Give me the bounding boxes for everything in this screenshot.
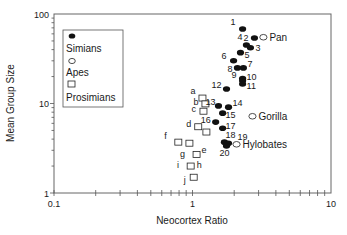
ape-point-label: Hylobates bbox=[243, 139, 287, 150]
simian-point-label: 13 bbox=[205, 97, 215, 107]
simian-point bbox=[225, 104, 232, 110]
simian-point-label: 7 bbox=[247, 59, 252, 69]
legend-label-apes: Apes bbox=[66, 67, 89, 78]
ape-point-label: Pan bbox=[269, 32, 287, 43]
prosimian-point-label: h bbox=[197, 160, 202, 170]
prosimian-point bbox=[190, 174, 197, 180]
simian-point bbox=[239, 81, 246, 87]
prosimian-point bbox=[175, 139, 182, 145]
simian-point-label: 16 bbox=[201, 115, 211, 125]
point-labels: 1234567891011121314151617181920PanGorill… bbox=[164, 17, 287, 185]
prosimian-point-label: i bbox=[177, 160, 179, 170]
filled-circle-icon bbox=[69, 33, 76, 38]
legend: Simians Apes Prosimians bbox=[63, 30, 123, 107]
simian-point-label: 9 bbox=[232, 70, 237, 80]
ape-point bbox=[260, 34, 267, 40]
prosimian-point-label: g bbox=[180, 149, 185, 159]
prosimian-point bbox=[200, 108, 207, 114]
simian-point-label: 12 bbox=[212, 80, 222, 90]
simian-point bbox=[243, 42, 250, 48]
y-tick-label: 100 bbox=[34, 10, 49, 20]
simian-point-label: 2 bbox=[243, 33, 248, 43]
simian-point-label: 15 bbox=[226, 110, 236, 120]
simian-point bbox=[212, 119, 219, 125]
prosimian-point bbox=[187, 163, 194, 169]
x-axis-label: Neocortex Ratio bbox=[156, 215, 228, 226]
simian-point bbox=[230, 58, 237, 64]
simian-point bbox=[239, 26, 246, 32]
x-tick-label: 0.1 bbox=[48, 199, 61, 209]
legend-label-prosimians: Prosimians bbox=[66, 92, 115, 103]
simian-point-label: 6 bbox=[222, 51, 227, 61]
simian-point bbox=[223, 86, 230, 92]
simian-point-label: 4 bbox=[237, 32, 242, 42]
y-axis-tick-labels: 110100 bbox=[34, 10, 49, 199]
simian-point-label: 18 bbox=[225, 130, 235, 140]
x-tick-label: 10 bbox=[326, 199, 336, 209]
simian-point-label: 11 bbox=[247, 81, 256, 91]
simian-point bbox=[215, 103, 222, 109]
prosimian-point bbox=[193, 151, 200, 157]
x-tick-label: 1 bbox=[190, 199, 195, 209]
prosimian-point-label: c bbox=[191, 104, 196, 114]
x-axis-tick-labels: 0.1110 bbox=[48, 199, 336, 209]
y-tick-label: 1 bbox=[44, 189, 49, 199]
prosimian-point-label: f bbox=[164, 131, 167, 141]
legend-label-simians: Simians bbox=[66, 43, 102, 54]
scatter-chart: 0.1110 110100 Neocortex Ratio Mean Group… bbox=[0, 0, 347, 235]
simian-point-label: 14 bbox=[233, 98, 243, 108]
simian-point-label: 1 bbox=[231, 17, 236, 27]
simian-point-label: 20 bbox=[220, 148, 230, 158]
ape-point bbox=[249, 113, 256, 119]
prosimian-point bbox=[203, 129, 210, 135]
ape-point bbox=[233, 142, 240, 148]
simian-point bbox=[251, 35, 258, 41]
prosimian-point-label: d bbox=[186, 119, 191, 129]
ape-point-label: Gorilla bbox=[258, 111, 287, 122]
prosimian-point-label: e bbox=[202, 145, 207, 155]
prosimian-point-label: j bbox=[183, 175, 186, 185]
prosimian-point bbox=[186, 140, 193, 146]
y-axis-label: Mean Group Size bbox=[5, 64, 16, 142]
y-tick-label: 10 bbox=[39, 99, 49, 109]
simian-point bbox=[237, 50, 244, 56]
prosimian-point-label: a bbox=[190, 86, 195, 96]
simian-point-label: 3 bbox=[255, 43, 260, 53]
y-axis-ticks bbox=[50, 18, 54, 193]
